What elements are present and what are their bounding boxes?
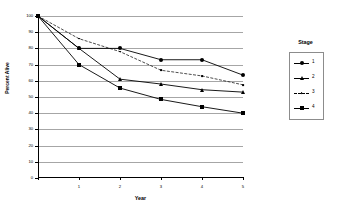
y-tick-label: 70: [29, 63, 33, 67]
series-markers: [38, 16, 243, 178]
data-point-stage-4-year-0: [36, 14, 40, 18]
triangle-marker-icon: [300, 76, 304, 80]
y-tick-label: 10: [29, 160, 33, 164]
legend-label: 4: [312, 105, 315, 110]
data-point-stage-4-year-1: [77, 63, 81, 67]
dot-marker-icon: [301, 92, 303, 94]
y-tick-label: 20: [29, 144, 33, 148]
data-point-stage-2-year-3: [159, 82, 163, 86]
x-tick-label: 2: [113, 185, 127, 189]
data-point-stage-4-year-2: [118, 86, 122, 90]
legend-label: 2: [312, 75, 315, 80]
data-point-stage-3-year-3: [160, 69, 162, 71]
legend-box: 1234: [289, 52, 324, 120]
y-tick-label: 0: [31, 176, 33, 180]
chart-figure: Percent Alive 0102030405060708090100 123…: [0, 0, 337, 210]
x-tick-label: 5: [236, 185, 250, 189]
data-point-stage-3-year-1: [78, 38, 80, 40]
data-point-stage-4-year-4: [200, 105, 204, 109]
data-point-stage-1-year-5: [241, 73, 245, 77]
legend-label: 3: [312, 90, 315, 95]
y-tick-label: 90: [29, 30, 33, 34]
legend-item-2[interactable]: 2: [290, 72, 323, 86]
data-point-stage-2-year-1: [77, 46, 81, 50]
data-point-stage-1-year-4: [200, 58, 204, 62]
data-point-stage-2-year-5: [241, 90, 245, 94]
data-point-stage-3-year-2: [119, 51, 121, 53]
legend-item-4[interactable]: 4: [290, 102, 323, 116]
circle-marker-icon: [300, 61, 304, 65]
y-axis-title: Percent Alive: [5, 62, 10, 94]
legend-item-1[interactable]: 1: [290, 57, 323, 71]
x-tick-label: 4: [195, 185, 209, 189]
legend-label: 1: [312, 60, 315, 65]
data-point-stage-4-year-3: [159, 97, 163, 101]
plot-area: [38, 16, 243, 178]
data-point-stage-3-year-4: [201, 75, 203, 77]
y-tick-label: 80: [29, 46, 33, 50]
x-tick-label: 1: [72, 185, 86, 189]
x-axis-tick: [243, 177, 244, 180]
data-point-stage-4-year-5: [241, 111, 245, 115]
data-point-stage-2-year-4: [200, 88, 204, 92]
square-marker-icon: [300, 106, 304, 110]
x-tick-label: 3: [154, 185, 168, 189]
y-tick-label: 60: [29, 79, 33, 83]
legend-title: Stage: [289, 40, 322, 45]
y-tick-label: 100: [26, 14, 33, 18]
y-tick-label: 50: [29, 95, 33, 99]
data-point-stage-2-year-2: [118, 77, 122, 81]
data-point-stage-3-year-5: [242, 84, 244, 86]
data-point-stage-1-year-3: [159, 58, 163, 62]
x-axis-title: Year: [38, 196, 243, 201]
y-tick-label: 30: [29, 127, 33, 131]
y-tick-label: 40: [29, 111, 33, 115]
legend-item-3[interactable]: 3: [290, 87, 323, 101]
